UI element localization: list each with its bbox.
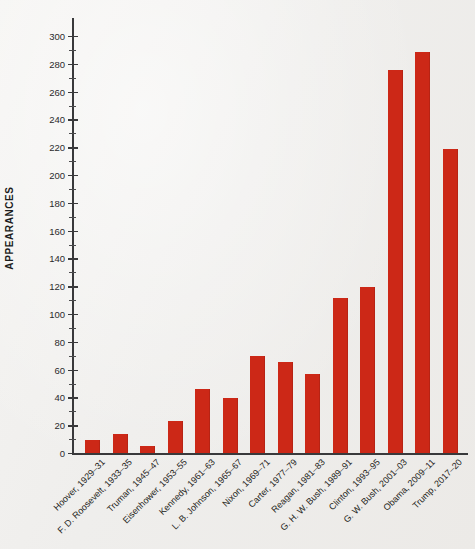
bar: [443, 149, 458, 453]
y-tick-label: 40: [54, 392, 65, 403]
plot-area: 0204060801001201401601802002202402602803…: [72, 18, 468, 455]
bar: [415, 52, 430, 454]
x-axis-label-text: Trump, 2017–20: [411, 457, 465, 511]
y-tick-label: 180: [49, 197, 65, 208]
x-axis-labels: Hoover, 1929–31F. D. Roosevelt, 1933–35T…: [72, 457, 475, 549]
bar: [305, 374, 320, 453]
y-tick-label: 80: [54, 336, 65, 347]
y-tick-label: 0: [60, 448, 65, 459]
y-tick-label: 160: [49, 225, 65, 236]
bar: [333, 298, 348, 454]
y-tick-label: 120: [49, 281, 65, 292]
y-tick-label: 200: [49, 170, 65, 181]
bar: [168, 421, 183, 453]
bar: [113, 434, 128, 453]
bar: [140, 446, 155, 453]
x-axis-label: Trump, 2017–20: [411, 457, 465, 511]
bar: [388, 70, 403, 454]
bar: [195, 389, 210, 453]
y-tick-label: 280: [49, 58, 65, 69]
y-tick-label: 20: [54, 420, 65, 431]
y-tick-label: 140: [49, 253, 65, 264]
y-tick-label: 60: [54, 364, 65, 375]
y-tick-label: 300: [49, 31, 65, 42]
y-tick-label: 100: [49, 309, 65, 320]
bars-group: [72, 18, 468, 453]
x-axis-line: [72, 453, 468, 455]
x-axis-label: Carter, 1977–79: [246, 457, 299, 510]
y-tick-label: 240: [49, 114, 65, 125]
x-axis-label-text: Carter, 1977–79: [246, 457, 299, 510]
bar-chart: APPEARANCES 0204060801001201401601802002…: [0, 0, 475, 549]
y-axis-title: APPEARANCES: [4, 168, 15, 288]
y-tick-label: 220: [49, 142, 65, 153]
bar: [85, 440, 100, 454]
bar: [360, 287, 375, 454]
bar: [250, 356, 265, 453]
bar: [223, 398, 238, 454]
bar: [278, 362, 293, 454]
y-tick-label: 260: [49, 86, 65, 97]
